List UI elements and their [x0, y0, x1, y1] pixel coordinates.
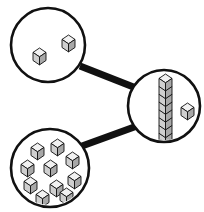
- diagram-canvas: [0, 0, 204, 212]
- node-node-loose-pair[interactable]: [11, 8, 85, 82]
- diagram-svg: [0, 0, 204, 212]
- node-node-group-of-ten[interactable]: [11, 129, 89, 207]
